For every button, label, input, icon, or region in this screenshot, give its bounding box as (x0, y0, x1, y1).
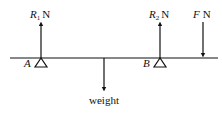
label-a: A (23, 57, 31, 69)
label-weight: weight (89, 94, 119, 106)
support-a-triangle-icon (35, 58, 47, 67)
force-f: FN (192, 8, 211, 55)
force-r1: R1N (29, 8, 50, 58)
beam-diagram: A B R1N R2N FN weight (0, 0, 222, 115)
support-a: A (23, 57, 47, 69)
label-f: FN (192, 8, 211, 20)
support-b: B (143, 57, 166, 69)
force-weight: weight (89, 58, 119, 106)
label-r1: R1N (29, 8, 50, 22)
label-b: B (143, 57, 150, 69)
force-r2: R2N (148, 8, 169, 58)
label-r2: R2N (148, 8, 169, 22)
support-b-triangle-icon (154, 58, 166, 67)
